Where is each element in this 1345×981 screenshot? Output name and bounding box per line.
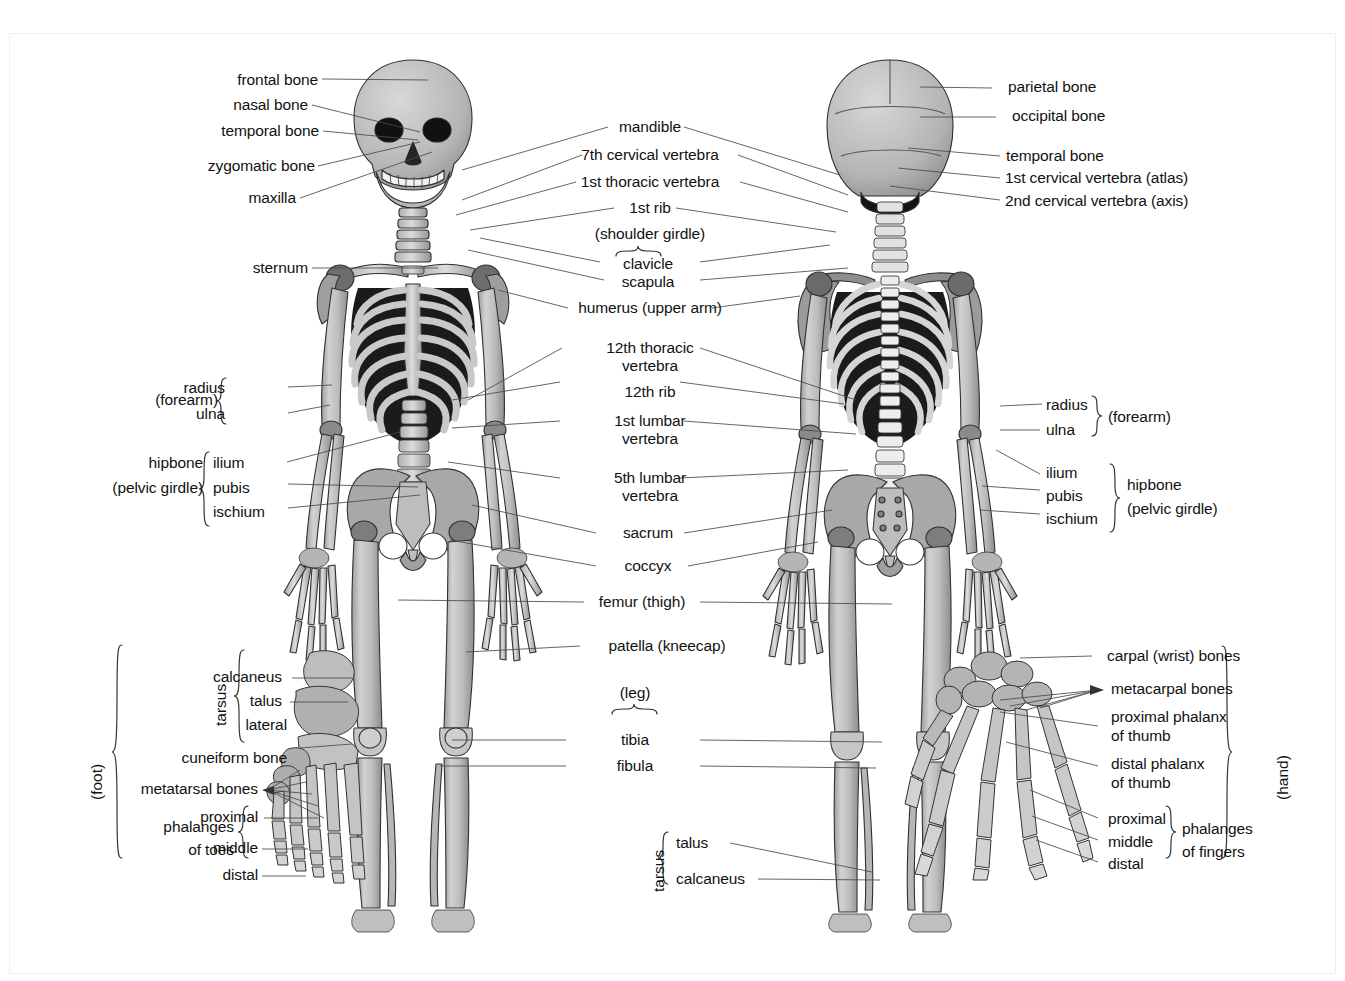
label-mandible: mandible <box>565 118 735 135</box>
label-temporal-bone: temporal bone <box>60 122 319 139</box>
label-patella: patella (kneecap) <box>577 637 757 654</box>
label-maxilla: maxilla <box>60 189 296 206</box>
label-lumbar-5: 5th lumbar <box>560 469 740 486</box>
label-middle-toe: middle <box>148 839 258 856</box>
label-calcaneus-foot: calcaneus <box>130 668 282 685</box>
label-talus-foot: talus <box>130 692 282 709</box>
label-leg: (leg) <box>600 684 670 701</box>
label-cervical-1: 1st cervical vertebra (atlas) <box>1005 169 1188 186</box>
label-proximal-finger: proximal <box>1108 810 1166 827</box>
label-ulna-right: ulna <box>1046 421 1075 438</box>
label-sternum: sternum <box>60 259 308 276</box>
label-frontal-bone: frontal bone <box>60 71 318 88</box>
label-lumbar-5-line2: vertebra <box>560 487 740 504</box>
label-cervical-7: 7th cervical vertebra <box>545 146 755 163</box>
label-ilium-right: ilium <box>1046 464 1077 481</box>
label-tarsus-center: tarsus <box>650 850 668 892</box>
label-parietal-bone: parietal bone <box>1008 78 1096 95</box>
label-proximal-toe: proximal <box>148 808 258 825</box>
label-rib-12: 12th rib <box>570 383 730 400</box>
label-lumbar-1: 1st lumbar <box>560 412 740 429</box>
label-cuneiform-bone: cuneiform bone <box>114 749 287 766</box>
label-femur: femur (thigh) <box>580 593 704 610</box>
label-humerus: humerus (upper arm) <box>540 299 760 316</box>
label-coccyx: coccyx <box>595 557 701 574</box>
label-carpal-bones: carpal (wrist) bones <box>1107 647 1240 664</box>
label-hand-bracket: (hand) <box>1274 755 1292 800</box>
label-distal-finger: distal <box>1108 855 1144 872</box>
label-thoracic-12-line2: vertebra <box>556 357 744 374</box>
label-thoracic-1: 1st thoracic vertebra <box>545 173 755 190</box>
hand-inset-illustration <box>905 640 1095 880</box>
label-hipbone-right: hipbone <box>1127 476 1181 493</box>
label-proximal-phalanx-thumb-line2: of thumb <box>1111 727 1171 744</box>
label-forearm-right: (forearm) <box>1108 408 1171 425</box>
label-pelvic-girdle-right: (pelvic girdle) <box>1127 500 1218 517</box>
label-shoulder-girdle: (shoulder girdle) <box>548 225 752 242</box>
label-clavicle: clavicle <box>596 255 700 272</box>
label-ischium-left: ischium <box>213 503 265 520</box>
label-scapula: scapula <box>596 273 700 290</box>
label-sacrum: sacrum <box>595 524 701 541</box>
label-talus-center: talus <box>676 834 708 851</box>
label-cervical-2: 2nd cervical vertebra (axis) <box>1005 192 1188 209</box>
label-distal-phalanx-thumb-line2: of thumb <box>1111 774 1171 791</box>
label-lumbar-1-line2: vertebra <box>560 430 740 447</box>
label-tibia: tibia <box>600 731 670 748</box>
label-metatarsal-bones: metatarsal bones <box>100 780 258 797</box>
label-zygomatic-bone: zygomatic bone <box>60 157 315 174</box>
label-pubis-left: pubis <box>213 479 250 496</box>
label-distal-toe: distal <box>148 866 258 883</box>
label-fibula: fibula <box>595 757 675 774</box>
label-thoracic-12: 12th thoracic <box>556 339 744 356</box>
label-middle-finger: middle <box>1108 833 1153 850</box>
label-phalanges-of-fingers: phalanges <box>1182 820 1253 837</box>
label-ischium-right: ischium <box>1046 510 1098 527</box>
label-radius-right: radius <box>1046 396 1088 413</box>
label-pelvic-girdle-left: (pelvic girdle) <box>20 479 203 496</box>
label-nasal-bone: nasal bone <box>60 96 308 113</box>
label-hipbone-left: hipbone <box>40 454 203 471</box>
label-distal-phalanx-thumb: distal phalanx <box>1111 755 1204 772</box>
label-occipital-bone: occipital bone <box>1012 107 1105 124</box>
label-metacarpal-bones: metacarpal bones <box>1111 680 1233 697</box>
label-temporal-bone-right: temporal bone <box>1006 147 1104 164</box>
label-phalanges-of-fingers-line2: of fingers <box>1182 843 1245 860</box>
label-calcaneus-center: calcaneus <box>676 870 745 887</box>
diagram-page: frontal bone nasal bone temporal bone zy… <box>0 0 1345 981</box>
label-pubis-right: pubis <box>1046 487 1083 504</box>
label-rib-1: 1st rib <box>590 199 710 216</box>
label-proximal-phalanx-thumb: proximal phalanx <box>1111 708 1227 725</box>
label-lateral: lateral <box>130 716 287 733</box>
label-ilium-left: ilium <box>213 454 244 471</box>
label-forearm-left: (forearm) <box>60 391 218 408</box>
